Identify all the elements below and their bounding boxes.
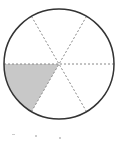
fraction-circle-diagram — [0, 0, 117, 142]
noise-marks — [12, 134, 61, 139]
shaded-sector — [4, 64, 59, 112]
